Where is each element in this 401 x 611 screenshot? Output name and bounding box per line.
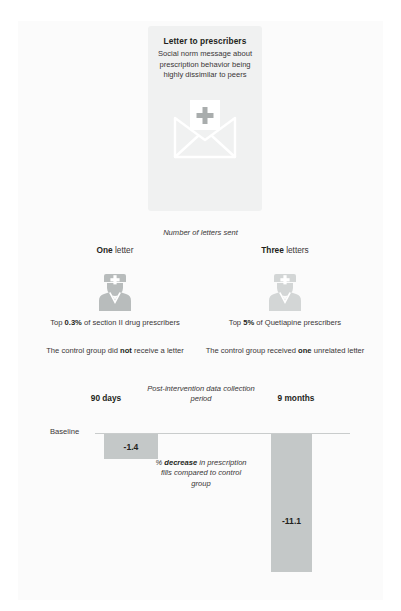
chart-note: % decrease in prescription fills compare… bbox=[153, 458, 249, 489]
bar-value-9-months: -11.1 bbox=[271, 516, 312, 526]
arm-control-left-suffix: receive a letter bbox=[132, 346, 184, 355]
arm-label-left: One letter bbox=[40, 245, 190, 255]
arm-unit-left: letter bbox=[113, 245, 134, 255]
infographic-page: Letter to prescribers Social norm messag… bbox=[0, 0, 401, 611]
doctor-icon bbox=[96, 271, 134, 311]
arm-unit-right: letters bbox=[284, 245, 309, 255]
letter-panel-title: Letter to prescribers bbox=[148, 36, 262, 46]
bar-90-days: -1.4 bbox=[104, 434, 158, 459]
letters-sent-caption: Number of letters sent bbox=[18, 228, 383, 237]
arm-population-left-value: 0.3% bbox=[65, 318, 82, 327]
arm-population-right-prefix: Top bbox=[229, 318, 243, 327]
arm-population-right: Top 5% of Quetiapine prescribers bbox=[199, 318, 371, 329]
baseline-label: Baseline bbox=[50, 427, 79, 436]
bar-value-90-days: -1.4 bbox=[104, 442, 158, 452]
arm-population-right-value: 5% bbox=[243, 318, 254, 327]
arm-control-right: The control group received one unrelated… bbox=[199, 346, 371, 357]
letter-panel: Letter to prescribers Social norm messag… bbox=[148, 26, 262, 211]
arm-count-left: One bbox=[97, 245, 113, 255]
arm-control-right-suffix: unrelated letter bbox=[312, 346, 365, 355]
arm-control-left-prefix: The control group did bbox=[46, 346, 120, 355]
timeline-point-right: 9 months bbox=[256, 393, 336, 403]
arm-population-left-prefix: Top bbox=[50, 318, 64, 327]
timeline-caption: Post-intervention data collection period bbox=[141, 384, 261, 405]
arm-count-right: Three bbox=[261, 245, 284, 255]
envelope-with-medical-cross-icon bbox=[172, 98, 238, 160]
arm-control-right-value: one bbox=[298, 346, 312, 355]
arm-label-right: Three letters bbox=[210, 245, 360, 255]
arm-population-right-suffix: of Quetiapine prescribers bbox=[254, 318, 341, 327]
arm-control-right-prefix: The control group received bbox=[206, 346, 298, 355]
chart-note-emphasis: decrease bbox=[164, 458, 197, 467]
arm-control-left-value: not bbox=[120, 346, 132, 355]
letter-panel-description: Social norm message about prescription b… bbox=[150, 49, 260, 81]
arm-population-left-suffix: of section II drug prescribers bbox=[82, 318, 180, 327]
timeline-point-left: 90 days bbox=[66, 393, 146, 403]
bar-9-months: -11.1 bbox=[271, 434, 312, 572]
chart-note-prefix: % bbox=[155, 458, 164, 467]
doctor-icon bbox=[266, 271, 304, 311]
arm-control-left: The control group did not receive a lett… bbox=[29, 346, 201, 357]
arm-population-left: Top 0.3% of section II drug prescribers bbox=[29, 318, 201, 329]
infographic-card: Letter to prescribers Social norm messag… bbox=[18, 21, 383, 600]
